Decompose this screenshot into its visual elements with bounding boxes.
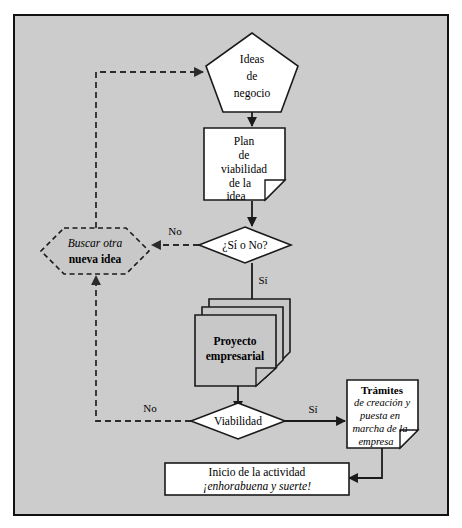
inicio-line-italic: ¡enhorabuena y suerte!: [203, 480, 311, 493]
node-plan-de-viabilidad: Plan de viabilidad de la idea: [204, 128, 285, 202]
proyecto-line-1: Proyecto: [213, 335, 256, 348]
flowchart-canvas: Ideas de negocio Plan de viabilidad de l…: [0, 0, 462, 528]
tramites-title: Trámites: [361, 384, 404, 396]
decision-si-no-label: ¿Sí o No?: [222, 239, 267, 252]
plan-line-2: de: [239, 149, 250, 161]
tramites-line-3: marcha de la: [352, 423, 407, 434]
edge-label-si-top: Sí: [258, 274, 267, 286]
edge-label-si-bottom: Sí: [308, 403, 317, 415]
node-buscar-otra-nueva-idea: Buscar otra nueva idea: [41, 228, 149, 274]
edge-label-no-bottom: No: [143, 402, 157, 414]
buscar-line-italic: Buscar otra: [68, 237, 123, 249]
flowchart-diagram: Ideas de negocio Plan de viabilidad de l…: [0, 0, 462, 528]
plan-line-1: Plan: [234, 135, 255, 147]
tramites-line-4: empresa: [358, 436, 393, 447]
plan-line-5: idea: [226, 190, 245, 202]
proyecto-line-2: empresarial: [206, 350, 265, 363]
inicio-line-normal: Inicio de la actividad: [209, 466, 306, 478]
node-tramites: Trámites de creación y puesta en marcha …: [347, 380, 418, 448]
ideas-line-3: negocio: [234, 87, 271, 100]
edge-label-no-top: No: [168, 225, 182, 237]
plan-line-4: de la: [229, 177, 251, 189]
buscar-line-bold: nueva idea: [69, 253, 122, 265]
viabilidad-label: Viabilidad: [214, 415, 262, 427]
plan-line-3: viabilidad: [221, 163, 267, 175]
node-inicio-de-la-actividad: Inicio de la actividad ¡enhorabuena y su…: [165, 463, 349, 495]
ideas-line-2: de: [247, 70, 258, 82]
tramites-line-1: de creación y: [354, 397, 411, 408]
buscar-hexagon-shape: [41, 228, 149, 274]
ideas-line-1: Ideas: [240, 53, 265, 65]
tramites-line-2: puesta en: [359, 410, 400, 421]
